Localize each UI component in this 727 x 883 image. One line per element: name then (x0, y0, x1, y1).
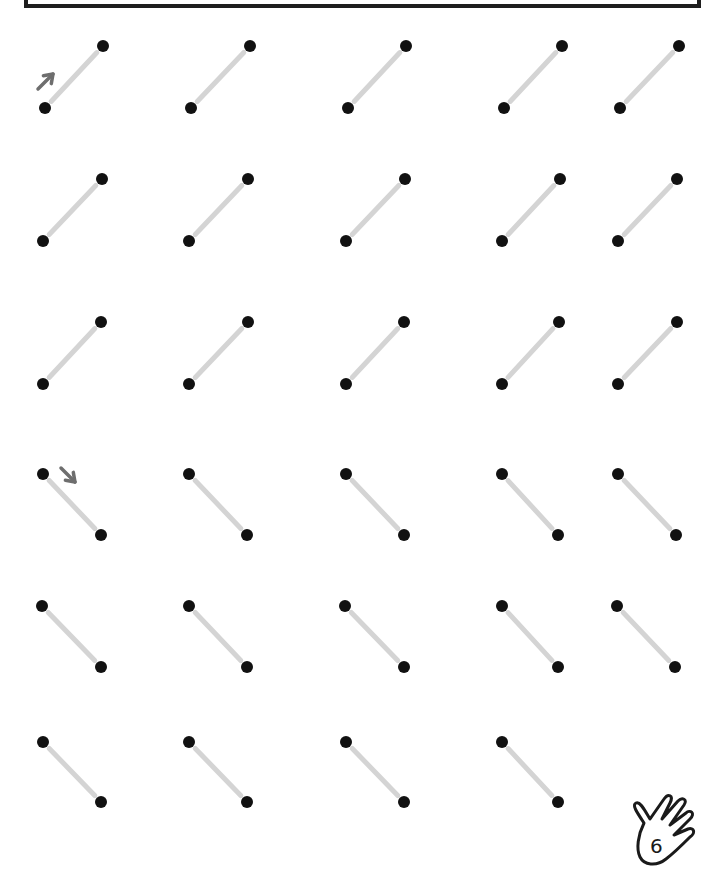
start-dot (340, 378, 352, 390)
end-dot (552, 796, 564, 808)
start-dot (340, 235, 352, 247)
start-dot (339, 600, 351, 612)
trace-lines (48, 53, 673, 796)
end-dot (398, 316, 410, 328)
trace-line[interactable] (197, 53, 244, 102)
start-dot (185, 102, 197, 114)
end-dot (553, 316, 565, 328)
end-dot (241, 529, 253, 541)
start-dot (612, 468, 624, 480)
trace-line[interactable] (624, 481, 670, 529)
trace-line[interactable] (508, 186, 554, 235)
trace-line[interactable] (195, 186, 242, 235)
start-dot (496, 600, 508, 612)
end-dot (97, 40, 109, 52)
start-dot (340, 468, 352, 480)
end-dot (95, 529, 107, 541)
trace-line[interactable] (195, 748, 240, 795)
end-dot (95, 661, 107, 673)
end-dot (398, 529, 410, 541)
trace-line[interactable] (352, 186, 399, 235)
start-dot (496, 378, 508, 390)
hand-icon: 6 (634, 796, 693, 865)
end-dot (398, 796, 410, 808)
end-dot (242, 173, 254, 185)
start-dot (496, 468, 508, 480)
start-dot (36, 600, 48, 612)
trace-line[interactable] (354, 53, 400, 102)
end-dot (670, 529, 682, 541)
end-dot (556, 40, 568, 52)
start-dot (39, 102, 51, 114)
start-dot (183, 600, 195, 612)
trace-line[interactable] (49, 186, 96, 235)
trace-line[interactable] (624, 329, 671, 378)
end-dot (400, 40, 412, 52)
start-dot (612, 235, 624, 247)
start-dot (498, 102, 510, 114)
end-dot (552, 661, 564, 673)
start-dot (183, 468, 195, 480)
start-dot (183, 378, 195, 390)
start-dot (183, 235, 195, 247)
trace-line[interactable] (195, 329, 242, 378)
end-dot (669, 661, 681, 673)
trace-line[interactable] (49, 481, 95, 529)
end-dot (95, 796, 107, 808)
trace-line[interactable] (51, 53, 97, 102)
start-dot (496, 235, 508, 247)
end-dot (398, 661, 410, 673)
end-dot (399, 173, 411, 185)
end-dot (552, 529, 564, 541)
trace-line[interactable] (508, 329, 553, 378)
trace-line[interactable] (352, 748, 397, 795)
start-dot (611, 600, 623, 612)
trace-line[interactable] (508, 613, 552, 661)
page-number: 6 (650, 834, 663, 858)
direction-arrows (38, 74, 75, 482)
trace-line[interactable] (623, 613, 669, 661)
end-dot (95, 316, 107, 328)
trace-line[interactable] (508, 481, 552, 529)
end-dot (242, 316, 254, 328)
start-dot (183, 736, 195, 748)
end-dot (673, 40, 685, 52)
trace-dots (36, 40, 685, 808)
arrow-down-right-icon (61, 468, 75, 482)
arrow-up-right-icon (38, 74, 53, 89)
trace-line[interactable] (352, 329, 398, 378)
trace-line[interactable] (624, 186, 671, 235)
trace-line[interactable] (508, 749, 552, 796)
end-dot (554, 173, 566, 185)
start-dot (37, 378, 49, 390)
trace-line[interactable] (510, 53, 556, 102)
end-dot (96, 173, 108, 185)
start-dot (496, 736, 508, 748)
end-dot (671, 173, 683, 185)
start-dot (340, 736, 352, 748)
start-dot (37, 468, 49, 480)
end-dot (244, 40, 256, 52)
end-dot (671, 316, 683, 328)
start-dot (612, 378, 624, 390)
trace-line[interactable] (48, 612, 94, 660)
end-dot (241, 661, 253, 673)
trace-line[interactable] (626, 53, 673, 102)
trace-line[interactable] (351, 612, 397, 660)
end-dot (241, 796, 253, 808)
trace-line[interactable] (352, 481, 398, 529)
start-dot (37, 736, 49, 748)
trace-line[interactable] (195, 481, 241, 529)
trace-line[interactable] (49, 748, 94, 795)
trace-line[interactable] (49, 329, 95, 378)
start-dot (342, 102, 354, 114)
start-dot (37, 235, 49, 247)
tracing-worksheet: 6 (0, 0, 727, 883)
start-dot (614, 102, 626, 114)
trace-line[interactable] (195, 613, 241, 661)
